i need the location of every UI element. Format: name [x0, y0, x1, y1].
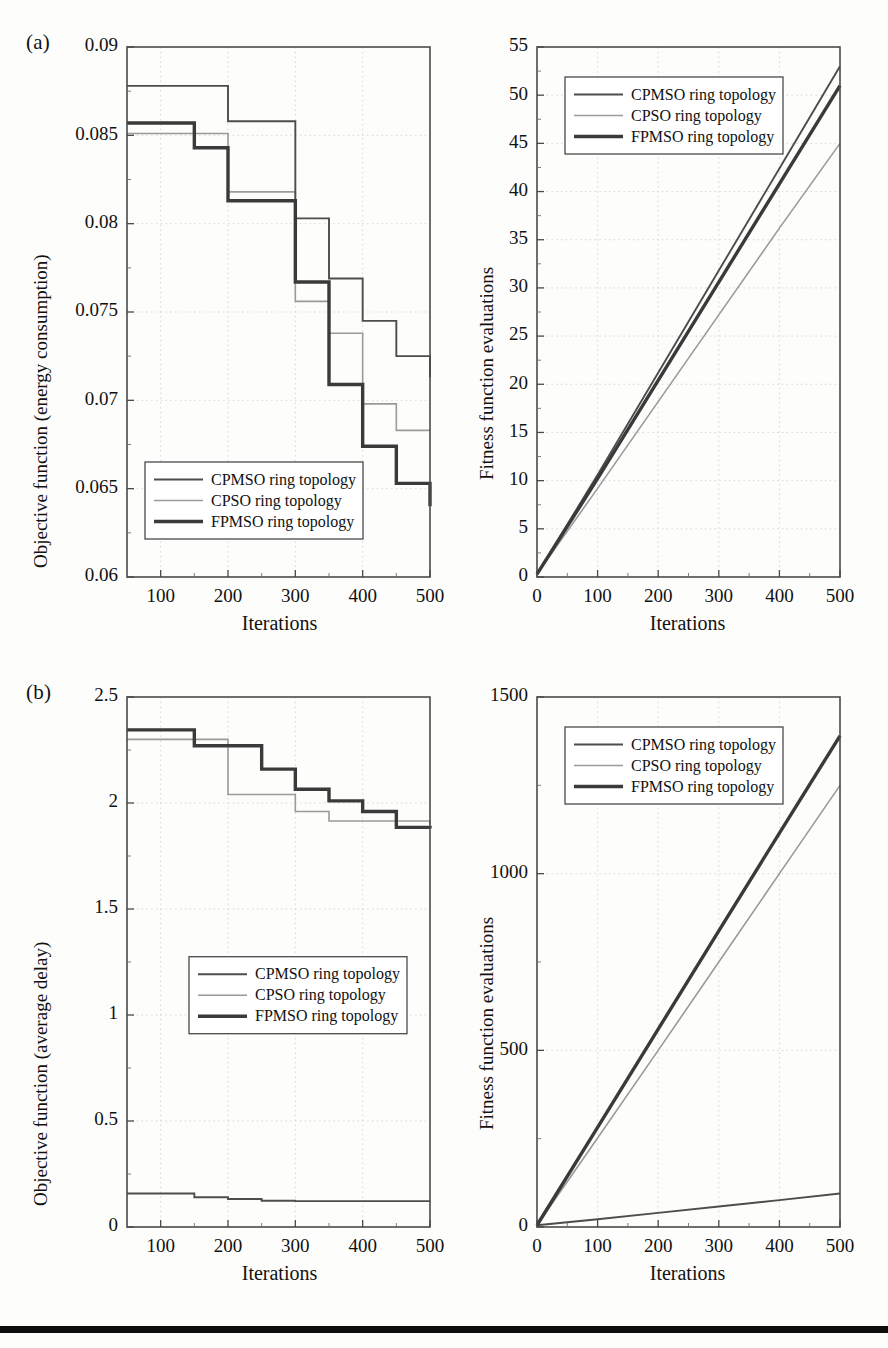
y-tick-label: 25 — [509, 323, 528, 344]
series-line-fpmso — [127, 730, 430, 829]
y-tick-label: 2 — [109, 790, 119, 811]
y-tick-label: 0.07 — [85, 388, 118, 409]
legend-label-fpmso: FPMSO ring topology — [631, 778, 774, 796]
y-tick-label: 1500 — [490, 684, 528, 705]
x-tick-label: 400 — [348, 1235, 377, 1256]
y-tick-label: 5 — [519, 516, 529, 537]
x-tick-label: 200 — [214, 1235, 243, 1256]
y-tick-label: 50 — [509, 83, 528, 104]
chart-a-left-xlabel: Iterations — [127, 612, 432, 635]
y-tick-label: 0.065 — [75, 476, 118, 497]
x-tick-label: 400 — [348, 585, 377, 606]
x-tick-label: 200 — [214, 585, 243, 606]
series-line-fpmso — [127, 123, 430, 506]
y-tick-label: 0.08 — [85, 211, 118, 232]
legend-label-fpmso: FPMSO ring topology — [631, 128, 774, 146]
y-tick-label: 0.06 — [85, 564, 118, 585]
y-tick-label: 0.075 — [75, 299, 118, 320]
legend-label-cpmso: CPMSO ring topology — [255, 965, 400, 983]
x-tick-label: 300 — [281, 1235, 310, 1256]
chart-a-right: 05101520253035404550550100200300400500CP… — [450, 0, 888, 650]
series-line-cpmso — [127, 1194, 430, 1202]
y-tick-label: 40 — [509, 179, 528, 200]
legend-label-fpmso: FPMSO ring topology — [211, 513, 354, 531]
x-tick-label: 500 — [826, 1235, 855, 1256]
chart-b-left-svg: 00.511.522.5100200300400500CPMSO ring to… — [0, 650, 450, 1300]
x-tick-label: 200 — [644, 585, 673, 606]
chart-a-right-ylabel: Fitness function evaluations — [476, 267, 498, 480]
chart-b-right-ylabel: Fitness function evaluations — [476, 917, 498, 1130]
series-group — [127, 86, 430, 506]
series-line-cpmso — [127, 86, 430, 378]
chart-a-left-svg: 0.060.0650.070.0750.080.0850.09100200300… — [0, 0, 450, 650]
legend-label-cpso: CPSO ring topology — [255, 986, 386, 1004]
y-tick-label: 500 — [500, 1038, 529, 1059]
y-tick-label: 55 — [509, 34, 528, 55]
x-tick-label: 400 — [765, 1235, 794, 1256]
series-line-cpso — [537, 143, 840, 574]
chart-b-left: 00.511.522.5100200300400500CPMSO ring to… — [0, 650, 450, 1300]
x-tick-label: 500 — [416, 1235, 445, 1256]
y-tick-label: 0 — [519, 564, 529, 585]
y-tick-label: 1000 — [490, 861, 528, 882]
x-tick-label: 400 — [765, 585, 794, 606]
chart-b-right-svg: 0500100015000100200300400500CPMSO ring t… — [450, 650, 888, 1300]
chart-a-right-xlabel: Iterations — [535, 612, 840, 635]
legend-label-cpmso: CPMSO ring topology — [211, 471, 356, 489]
y-tick-label: 1.5 — [94, 896, 118, 917]
figure-root: (a) (b) 0.060.0650.070.0750.080.0850.091… — [0, 0, 888, 1348]
y-tick-label: 0 — [109, 1214, 119, 1235]
y-tick-label: 35 — [509, 227, 528, 248]
y-tick-label: 0.5 — [94, 1108, 118, 1129]
x-tick-label: 500 — [826, 585, 855, 606]
legend-label-cpso: CPSO ring topology — [631, 107, 762, 125]
x-tick-label: 200 — [644, 1235, 673, 1256]
series-group — [537, 736, 840, 1225]
bottom-divider-rule — [0, 1326, 888, 1333]
series-line-fpmso — [537, 736, 840, 1225]
series-line-cpso — [537, 785, 840, 1225]
legend: CPMSO ring topologyCPSO ring topologyFPM… — [145, 462, 363, 539]
y-tick-label: 10 — [509, 468, 528, 489]
legend: CPMSO ring topologyCPSO ring topologyFPM… — [565, 727, 783, 804]
chart-b-left-xlabel: Iterations — [127, 1262, 432, 1285]
x-tick-label: 0 — [532, 585, 542, 606]
legend-label-fpmso: FPMSO ring topology — [255, 1007, 398, 1025]
y-tick-label: 2.5 — [94, 684, 118, 705]
legend: CPMSO ring topologyCPSO ring topologyFPM… — [189, 957, 407, 1034]
y-tick-label: 0.09 — [85, 34, 118, 55]
legend-label-cpso: CPSO ring topology — [211, 492, 342, 510]
series-line-cpmso — [537, 1193, 840, 1225]
chart-b-right-xlabel: Iterations — [535, 1262, 840, 1285]
legend-label-cpmso: CPMSO ring topology — [631, 736, 776, 754]
chart-a-left: 0.060.0650.070.0750.080.0850.09100200300… — [0, 0, 450, 650]
x-tick-label: 100 — [146, 1235, 175, 1256]
x-tick-label: 500 — [416, 585, 445, 606]
x-tick-label: 100 — [583, 585, 612, 606]
legend-label-cpso: CPSO ring topology — [631, 757, 762, 775]
chart-a-right-svg: 05101520253035404550550100200300400500CP… — [450, 0, 888, 650]
series-line-cpso — [127, 134, 430, 431]
series-line-fpmso — [537, 86, 840, 575]
legend: CPMSO ring topologyCPSO ring topologyFPM… — [565, 77, 783, 154]
x-tick-label: 300 — [281, 585, 310, 606]
y-tick-label: 45 — [509, 131, 528, 152]
x-tick-label: 300 — [705, 1235, 734, 1256]
y-tick-label: 1 — [109, 1002, 119, 1023]
y-tick-label: 30 — [509, 275, 528, 296]
x-tick-label: 300 — [705, 585, 734, 606]
chart-b-right: 0500100015000100200300400500CPMSO ring t… — [450, 650, 888, 1300]
x-tick-label: 100 — [583, 1235, 612, 1256]
y-tick-label: 0.085 — [75, 123, 118, 144]
chart-a-left-ylabel: Objective function (energy consumption) — [30, 254, 52, 568]
chart-b-left-ylabel: Objective function (average delay) — [30, 942, 52, 1206]
y-tick-label: 0 — [519, 1214, 529, 1235]
y-tick-label: 20 — [509, 372, 528, 393]
x-tick-label: 100 — [146, 585, 175, 606]
y-tick-label: 15 — [509, 420, 528, 441]
legend-label-cpmso: CPMSO ring topology — [631, 86, 776, 104]
x-tick-label: 0 — [532, 1235, 542, 1256]
